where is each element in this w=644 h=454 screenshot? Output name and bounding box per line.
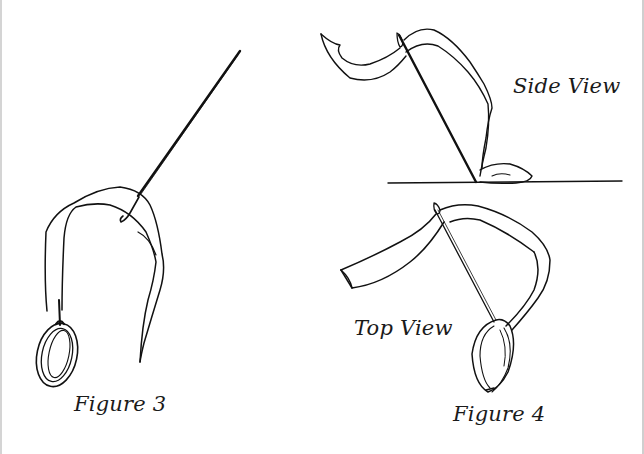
ring-icon [31, 300, 83, 390]
figure-3-caption: Figure 3 [74, 392, 166, 416]
ribbon-icon [45, 187, 163, 362]
top-view-label: Top View [354, 316, 453, 340]
ring-icon [472, 320, 514, 392]
illustration-canvas [2, 0, 644, 454]
figure-4-side-view-drawing [321, 29, 622, 183]
figure-4-top-view-drawing [341, 203, 550, 392]
needle-icon [434, 203, 496, 322]
figure-4-caption: Figure 4 [453, 402, 545, 426]
illustration-page: Side View Top View Figure 3 Figure 4 [0, 0, 644, 454]
side-view-label: Side View [513, 74, 620, 98]
ribbon-icon [321, 29, 532, 183]
figure-3-drawing [31, 51, 240, 390]
needle-icon [120, 51, 240, 222]
